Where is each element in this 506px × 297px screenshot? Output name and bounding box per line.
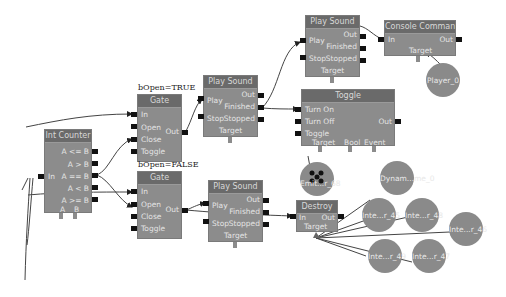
- pin-label-a-lt-b: A < B: [68, 184, 89, 193]
- var-label-target: Target: [304, 222, 327, 231]
- pin-label-play: Play: [309, 36, 325, 45]
- inter-45-variable[interactable]: Inte...r_45: [362, 198, 396, 232]
- pin-label-stop: Stop: [207, 114, 224, 123]
- gate-false-close-pin[interactable]: [131, 214, 137, 219]
- gate-true-toggle-pin[interactable]: [131, 149, 137, 154]
- pin-label-finished: Finished: [229, 207, 260, 216]
- play-sound-1-target-pin[interactable]: [228, 137, 232, 143]
- play-sound-3-play-pin[interactable]: [203, 201, 209, 206]
- gate-false-out-pin[interactable]: [182, 208, 188, 213]
- pin-label-toggle: Toggle: [141, 224, 165, 233]
- player-variable[interactable]: Player_0: [426, 63, 460, 97]
- play-sound-2-play-pin[interactable]: [300, 38, 306, 43]
- gate-true-close-pin[interactable]: [131, 137, 137, 142]
- console-command-target-pin[interactable]: [416, 56, 420, 62]
- destroy-in-pin[interactable]: [290, 214, 296, 219]
- int-counter-a-le-b-pin[interactable]: [92, 149, 98, 154]
- pin-label-play: Play: [212, 201, 228, 210]
- destroy-node[interactable]: Destroy In Out Target: [296, 200, 338, 232]
- play-sound-node-3[interactable]: Play Sound Play Stop Out Finished Stoppe…: [208, 180, 263, 242]
- play-sound-3-stop-pin[interactable]: [203, 219, 209, 224]
- toggle-turn-off-pin[interactable]: [295, 119, 301, 124]
- play-sound-2-finished-pin[interactable]: [360, 46, 366, 51]
- node-title: Console Command: [385, 21, 455, 34]
- pin-label-in: In: [141, 110, 148, 119]
- gate-true-out-pin[interactable]: [182, 130, 188, 135]
- pin-label-in: In: [141, 187, 148, 196]
- play-sound-3-finished-pin[interactable]: [263, 210, 269, 215]
- int-counter-a-gt-b-pin[interactable]: [92, 161, 98, 166]
- inter-46-variable[interactable]: Inte...r_46: [449, 212, 483, 246]
- node-title: Play Sound: [306, 16, 359, 29]
- node-title: Toggle: [302, 90, 394, 103]
- int-counter-a-eq-b-pin[interactable]: [92, 173, 98, 178]
- var-label-target: Target: [224, 231, 247, 240]
- pin-label-in: In: [388, 35, 395, 44]
- pin-label-open: Open: [141, 200, 161, 209]
- console-command-in-pin[interactable]: [378, 37, 384, 42]
- int-counter-var-b-pin[interactable]: [73, 213, 77, 219]
- pin-label-finished: Finished: [326, 42, 357, 51]
- node-title: Int Counter: [45, 130, 91, 143]
- pin-label-toggle: Toggle: [305, 129, 329, 138]
- play-sound-1-out-pin[interactable]: [258, 93, 264, 98]
- int-counter-in-pin[interactable]: [38, 174, 44, 179]
- play-sound-2-stopped-pin[interactable]: [360, 58, 366, 63]
- toggle-out-pin[interactable]: [395, 119, 401, 124]
- node-title: Play Sound: [209, 181, 262, 194]
- node-title: Play Sound: [204, 76, 257, 89]
- variable-label: Inte...r_45: [362, 211, 396, 220]
- play-sound-node-2[interactable]: Play Sound Play Stop Out Finished Stoppe…: [305, 15, 360, 77]
- play-sound-2-out-pin[interactable]: [360, 34, 366, 39]
- play-sound-2-stop-pin[interactable]: [300, 55, 306, 60]
- toggle-bool-pin[interactable]: [348, 146, 352, 152]
- pin-label-turn-on: Turn On: [305, 105, 334, 114]
- gate-false-open-pin[interactable]: [131, 202, 137, 207]
- gate-true-node[interactable]: Gate In Open Close Toggle Out: [137, 94, 182, 162]
- gate-false-toggle-pin[interactable]: [131, 226, 137, 231]
- int-counter-a-lt-b-pin[interactable]: [92, 185, 98, 190]
- node-title: Gate: [138, 95, 181, 108]
- play-sound-1-stopped-pin[interactable]: [258, 117, 264, 122]
- pin-label-open: Open: [141, 123, 161, 132]
- destroy-out-pin[interactable]: [338, 214, 344, 219]
- variable-label: Emit...r_68: [300, 179, 334, 188]
- int-counter-node[interactable]: Int Counter In A <= B A > B A == B A < B…: [44, 129, 92, 213]
- pin-label-turn-off: Turn Off: [305, 117, 334, 126]
- pin-label-play: Play: [207, 96, 223, 105]
- gate-true-in-pin[interactable]: [131, 112, 137, 117]
- dynamic-variable[interactable]: Dynam...me_0: [380, 161, 414, 195]
- inter-48-variable[interactable]: Inte...r_48: [405, 198, 439, 232]
- int-counter-a-ge-b-pin[interactable]: [92, 197, 98, 202]
- pin-label-a-gt-b: A > B: [68, 160, 89, 169]
- play-sound-1-finished-pin[interactable]: [258, 105, 264, 110]
- play-sound-node-1[interactable]: Play Sound Play Stop Out Finished Stoppe…: [203, 75, 258, 137]
- gate-false-node[interactable]: Gate In Open Close Toggle Out: [137, 171, 182, 239]
- play-sound-3-out-pin[interactable]: [263, 198, 269, 203]
- int-counter-var-a-pin[interactable]: [59, 213, 63, 219]
- variable-label: Dynam...me_0: [380, 174, 414, 183]
- play-sound-3-stopped-pin[interactable]: [263, 222, 269, 227]
- inter-47-variable[interactable]: Inte...r_47: [412, 239, 446, 273]
- play-sound-2-target-pin[interactable]: [330, 77, 334, 83]
- pin-label-finished: Finished: [224, 102, 255, 111]
- inter-49-variable[interactable]: Inte...r_49: [368, 239, 402, 273]
- play-sound-1-play-pin[interactable]: [198, 96, 204, 101]
- console-command-out-pin[interactable]: [456, 37, 462, 42]
- gate-true-open-pin[interactable]: [131, 124, 137, 129]
- pin-label-out: Out: [165, 205, 179, 214]
- console-command-node[interactable]: Console Command In Out Target: [384, 20, 456, 56]
- toggle-turn-on-pin[interactable]: [295, 107, 301, 112]
- toggle-node[interactable]: Toggle Turn On Turn Off Toggle Out Targe…: [301, 89, 395, 146]
- emitter-variable[interactable]: Emit...r_68: [300, 162, 334, 196]
- gate-false-in-pin[interactable]: [131, 189, 137, 194]
- variable-label: Inte...r_46: [449, 225, 483, 234]
- pin-label-close: Close: [141, 135, 161, 144]
- play-sound-1-stop-pin[interactable]: [198, 114, 204, 119]
- pin-label-in: In: [48, 172, 55, 181]
- variable-label: Inte...r_48: [405, 211, 439, 220]
- toggle-target-pin[interactable]: [318, 146, 322, 152]
- toggle-event-pin[interactable]: [372, 146, 376, 152]
- toggle-toggle-pin[interactable]: [295, 131, 301, 136]
- play-sound-3-target-pin[interactable]: [233, 242, 237, 248]
